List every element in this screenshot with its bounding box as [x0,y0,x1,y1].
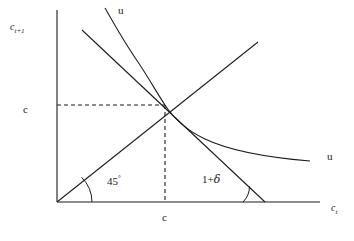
y-axis-label-subscript: t+1 [14,27,24,35]
forty-five-degree-line [57,42,258,202]
degree-symbol: ° [118,174,121,182]
y-axis-tick-label-c: c [23,104,28,115]
forty-five-degree-label: 45° [107,175,121,187]
indifference-curve-label-top: u [118,5,124,16]
x-axis-label: ct [331,203,337,216]
x-axis-label-subscript: t [335,208,337,216]
indifference-curve-u [105,8,310,161]
indifference-curve-label-right: u [327,151,333,162]
x-axis-tick-label-c: c [162,212,167,223]
discount-factor-label: 1+δ [202,174,220,185]
economics-consumption-diagram: ct+1 ct c c u u 45° 1+δ [0,0,354,241]
forty-five-degree-value: 45 [107,175,118,187]
diagram-canvas [0,0,354,241]
budget-angle-arc [243,186,250,202]
discount-factor-prefix: 1+ [202,173,214,185]
delta-symbol: δ [214,173,221,186]
y-axis-label: ct+1 [10,22,25,35]
